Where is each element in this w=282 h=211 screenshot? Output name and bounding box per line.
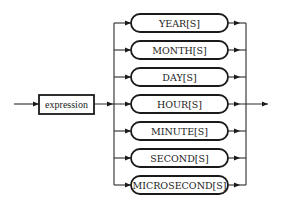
arrow-icon (107, 102, 113, 107)
option-label: MINUTE[S] (151, 126, 208, 137)
option-label: DAY[S] (162, 72, 196, 83)
arrow-icon (33, 102, 39, 107)
option-month: MONTH[S] (114, 41, 246, 59)
option-second: SECOND[S] (114, 149, 246, 167)
option-label: MICROSECOND[S] (132, 180, 226, 191)
option-label: YEAR[S] (158, 18, 200, 29)
option-year: YEAR[S] (114, 14, 246, 32)
option-microsecond: MICROSECOND[S] (114, 176, 246, 194)
option-hour: HOUR[S] (125, 95, 240, 113)
expression-node: expression (39, 95, 94, 114)
option-label: HOUR[S] (157, 99, 202, 110)
option-minute: MINUTE[S] (114, 122, 246, 140)
expression-label: expression (45, 99, 88, 110)
option-label: SECOND[S] (150, 153, 208, 164)
option-day: DAY[S] (114, 68, 246, 86)
arrow-icon (262, 102, 268, 107)
syntax-diagram: expression YEAR[S] MONTH[S] DAY[S] (0, 0, 282, 211)
option-label: MONTH[S] (152, 45, 206, 56)
